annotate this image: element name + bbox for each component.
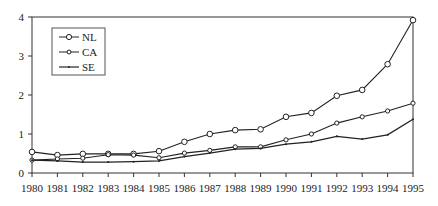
dot-marker-icon [336,135,338,137]
circle-marker-icon [232,127,238,133]
small-circle-marker-icon [335,121,339,125]
dot-marker-icon [82,161,84,163]
dot-marker-icon [107,161,109,163]
x-tick-label: 1983 [97,182,120,194]
x-tick-label: 1986 [173,182,196,194]
circle-marker-icon [359,87,365,93]
small-circle-marker-icon [386,109,390,113]
circle-marker-icon [410,17,416,23]
line-chart: 01234 1980198119821983198419851986198719… [0,0,438,206]
circle-marker-icon [207,131,213,137]
small-circle-marker-icon [284,138,288,142]
x-tick-label: 1995 [402,182,425,194]
circle-marker-icon [156,148,162,154]
x-tick-label: 1982 [72,182,94,194]
small-circle-marker-icon [309,132,313,136]
circle-marker-icon [182,139,188,145]
circle-marker-icon [29,149,35,155]
legend-label-ca: CA [82,46,97,58]
small-circle-marker-icon [182,151,186,155]
series-se [31,118,414,163]
circle-marker-icon [258,127,264,133]
y-tick-label: 4 [19,11,25,23]
dot-marker-icon [158,160,160,162]
x-tick-label: 1993 [351,182,374,194]
y-tick-label: 0 [19,167,25,179]
dot-marker-icon [387,134,389,136]
dot-marker-icon [68,66,70,68]
small-circle-marker-icon [208,148,212,152]
circle-marker-icon [334,93,340,99]
small-circle-marker-icon [411,101,415,105]
dot-marker-icon [31,159,33,161]
x-tick-label: 1989 [250,182,273,194]
x-tick-label: 1990 [275,182,298,194]
dot-marker-icon [310,141,312,143]
x-tick-label: 1992 [326,182,348,194]
small-circle-marker-icon [157,156,161,160]
dot-marker-icon [412,118,414,120]
dot-marker-icon [260,147,262,149]
small-circle-marker-icon [67,50,71,54]
x-tick-label: 1987 [199,182,222,194]
x-tick-label: 1991 [300,182,322,194]
x-tick-label: 1980 [21,182,44,194]
dot-marker-icon [133,161,135,163]
dot-marker-icon [361,138,363,140]
dot-marker-icon [183,156,185,158]
small-circle-marker-icon [81,156,85,160]
x-tick-label: 1994 [377,182,400,194]
circle-marker-icon [309,110,315,116]
x-tick-label: 1988 [224,182,247,194]
circle-marker-icon [66,34,71,39]
y-tick-label: 3 [19,50,25,62]
small-circle-marker-icon [132,153,136,157]
legend-label-se: SE [82,61,95,73]
circle-marker-icon [385,61,391,67]
circle-marker-icon [283,114,289,120]
legend: NL CA SE [52,28,105,75]
series-line [32,119,413,162]
y-tick-label: 2 [19,89,25,101]
dot-marker-icon [209,152,211,154]
small-circle-marker-icon [360,115,364,119]
dot-marker-icon [234,148,236,150]
x-tick-label: 1981 [46,182,68,194]
x-tick-label: 1984 [123,182,146,194]
dot-marker-icon [285,143,287,145]
x-axis: 1980198119821983198419851986198719881989… [21,173,425,194]
x-tick-label: 1985 [148,182,171,194]
y-tick-label: 1 [19,128,25,140]
small-circle-marker-icon [106,153,110,157]
legend-label-nl: NL [82,31,97,43]
dot-marker-icon [56,160,58,162]
